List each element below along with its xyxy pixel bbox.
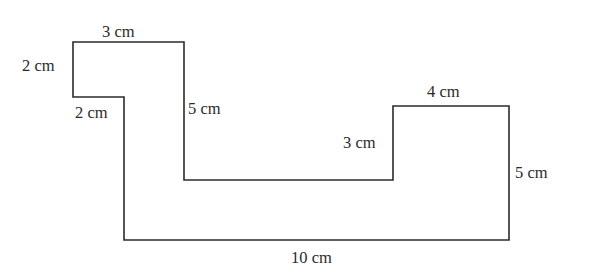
diagram-canvas: 3 cm 2 cm 2 cm 5 cm 3 cm 4 cm 5 cm 10 cm — [0, 0, 591, 277]
composite-polygon — [73, 42, 509, 240]
label-middle-drop: 5 cm — [188, 99, 221, 118]
label-top-left-width: 3 cm — [102, 22, 135, 41]
label-inner-step-width: 2 cm — [75, 103, 108, 122]
composite-shape-diagram: 3 cm 2 cm 2 cm 5 cm 3 cm 4 cm 5 cm 10 cm — [0, 0, 591, 277]
label-right-height: 5 cm — [515, 163, 548, 182]
label-bottom-width: 10 cm — [291, 248, 332, 267]
label-right-top-width: 4 cm — [427, 82, 460, 101]
label-left-height: 2 cm — [22, 56, 55, 75]
label-right-step-height: 3 cm — [343, 133, 376, 152]
